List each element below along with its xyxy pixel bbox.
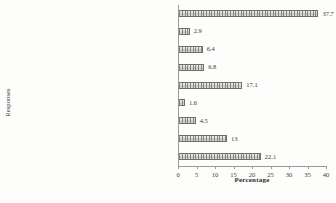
bar-row: Friendships (i.e due to ruptured social.… [178,77,326,95]
x-tick-mark [178,166,179,169]
bar [179,153,261,160]
x-tick-mark [252,166,253,169]
bar-value-label: 2.9 [194,26,202,35]
bar [179,99,185,106]
x-tick-mark [326,166,327,169]
x-tick-mark [197,166,198,169]
bar-value-label: 13 [231,134,238,143]
y-axis-title: Responses [0,55,14,150]
bar-row: Nothing37.7 [178,5,326,23]
bar-row: Property: vehicle/bicycle6.4 [178,41,326,59]
bar-value-label: 1.6 [189,98,197,107]
bar [179,117,196,124]
bar-row: Bodily integrity [due to rape/sexual abu… [178,23,326,41]
bar-row: Property: Home/ personal belongings22.1 [178,148,326,166]
bar-value-label: 37.7 [322,9,333,18]
bar [179,82,242,89]
plot-area: Nothing37.7Bodily integrity [due to rape… [178,5,326,166]
x-tick-mark [289,166,290,169]
bar [179,135,227,142]
bar-row: Education ( time off school)4.5 [178,112,326,130]
bar [179,10,318,17]
bar [179,46,203,53]
y-axis-title-text: Responses [4,88,11,116]
x-tick-mark [308,166,309,169]
x-tick-mark [271,166,272,169]
figure-caption [0,195,336,203]
x-axis-title: Percentage [178,176,326,184]
x-tick-mark [234,166,235,169]
bar-value-label: 6.8 [208,62,216,71]
bar-chart-figure: Responses Nothing37.7Bodily integrity [d… [0,0,336,203]
bar [179,28,190,35]
bar-value-label: 17.1 [246,80,257,89]
bar-row: Livelihood (for those in business)13 [178,130,326,148]
bar-value-label: 4.5 [200,116,208,125]
bar-row: Livelihood: Job/employment6.8 [178,59,326,77]
bar [179,64,204,71]
bar-row: Education (had to leave school entirely)… [178,94,326,112]
bar-value-label: 6.4 [207,44,215,53]
x-tick-mark [215,166,216,169]
bar-value-label: 22.1 [265,152,276,161]
